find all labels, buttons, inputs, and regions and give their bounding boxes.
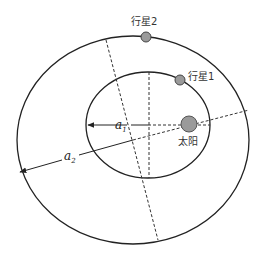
a1-label: a1 <box>115 118 127 134</box>
planet2-label: 行星2 <box>131 15 157 27</box>
a2-label: a2 <box>64 149 76 165</box>
kepler-orbits-diagram: a1 a2 太阳 行星1 行星2 <box>0 0 265 259</box>
a2-arrow-tail <box>79 140 133 155</box>
a2-arrow <box>20 160 62 172</box>
planet2-icon <box>141 32 151 42</box>
diagram-canvas: a1 a2 太阳 行星1 行星2 <box>0 0 265 259</box>
planet1-icon <box>175 75 185 85</box>
sun-label: 太阳 <box>178 135 198 147</box>
planet1-label: 行星1 <box>188 70 214 82</box>
sun-icon <box>181 116 197 132</box>
